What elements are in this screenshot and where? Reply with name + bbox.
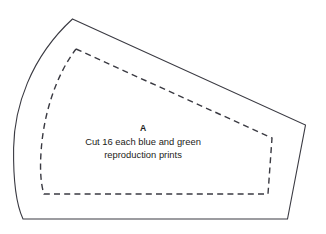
instruction-line-1: Cut 16 each blue and green (85, 136, 201, 147)
pattern-drawing: A Cut 16 each blue and green reproductio… (0, 0, 326, 234)
instruction-line-2: reproduction prints (104, 149, 182, 160)
pattern-sheet: A Cut 16 each blue and green reproductio… (0, 0, 326, 234)
cutting-line (14, 19, 306, 219)
piece-letter-label: A (140, 123, 146, 133)
